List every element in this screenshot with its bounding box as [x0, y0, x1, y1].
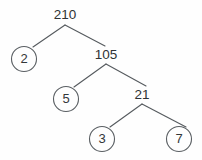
- node-label: 105: [95, 47, 118, 62]
- tree-node: 21: [134, 87, 149, 102]
- tree-edge: [110, 104, 142, 127]
- node-label: 7: [175, 131, 182, 146]
- tree-node: 105: [95, 47, 118, 62]
- node-label: 210: [54, 7, 77, 22]
- tree-node: 210: [54, 7, 77, 22]
- factor-tree-canvas: 210210552137: [0, 0, 202, 160]
- tree-node: 5: [54, 87, 79, 112]
- node-label: 3: [98, 131, 105, 146]
- tree-edge: [106, 64, 146, 86]
- node-group: 210210552137: [12, 7, 192, 151]
- tree-edge: [74, 64, 106, 87]
- edge-group: [33, 25, 186, 127]
- tree-node: 2: [12, 47, 37, 72]
- tree-node: 3: [90, 127, 115, 152]
- factor-tree-figure: 210210552137: [0, 0, 202, 160]
- node-label: 2: [20, 51, 27, 66]
- tree-edge: [33, 25, 65, 47]
- tree-node: 7: [167, 127, 192, 152]
- node-label: 21: [134, 87, 149, 102]
- node-label: 5: [62, 91, 69, 106]
- tree-edge: [142, 104, 186, 127]
- tree-edge: [65, 25, 105, 46]
